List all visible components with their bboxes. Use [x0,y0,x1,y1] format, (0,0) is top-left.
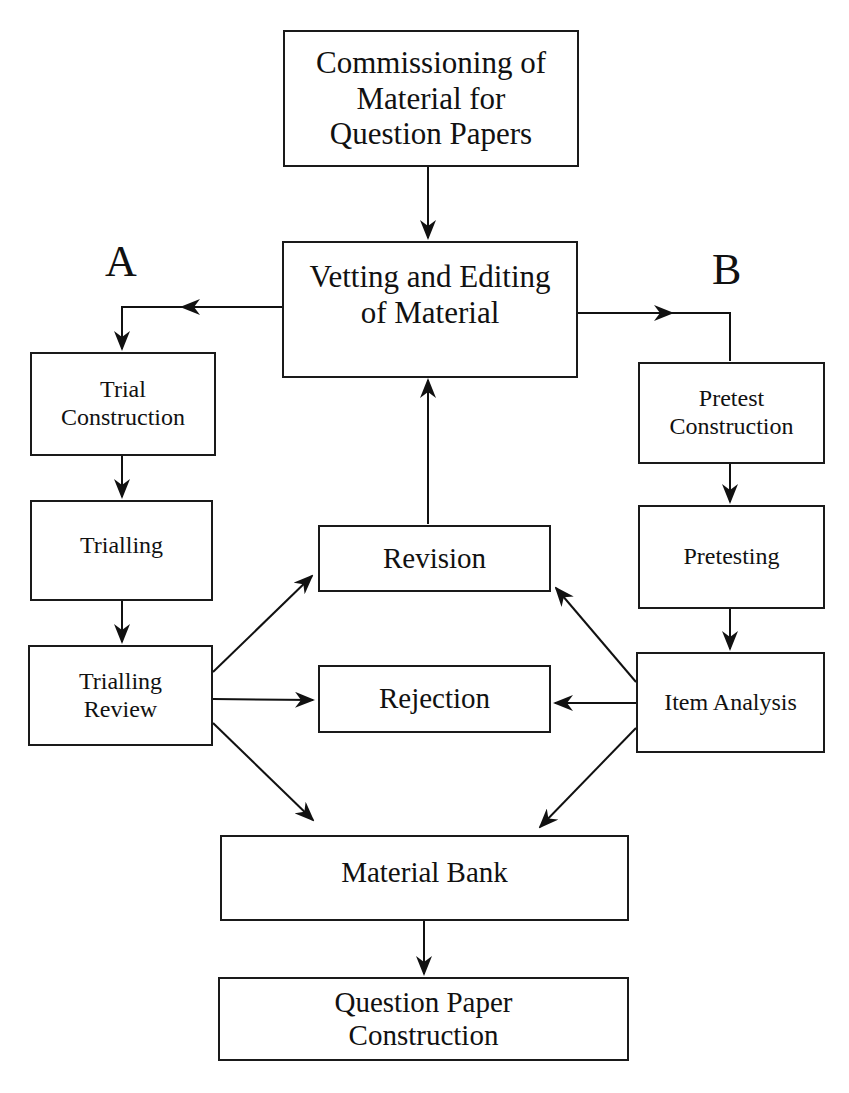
node-item-analysis: Item Analysis [636,652,825,753]
node-trialling-review-label: Trialling Review [79,668,162,723]
node-trial-construction-label: Trial Construction [61,376,185,431]
node-revision: Revision [318,525,551,592]
node-pretesting-label: Pretesting [684,543,780,571]
node-vetting: Vetting and Editing of Material [282,241,578,378]
node-rejection: Rejection [318,665,551,733]
node-material-bank-label: Material Bank [341,856,508,889]
branch-label-b: B [712,248,741,292]
node-trial-construction: Trial Construction [30,352,216,456]
node-vetting-label: Vetting and Editing of Material [309,259,550,330]
node-question-paper-label: Question Paper Construction [335,986,513,1053]
node-rejection-label: Rejection [379,682,490,715]
node-trialling: Trialling [30,500,213,601]
node-item-analysis-label: Item Analysis [664,689,797,717]
node-question-paper: Question Paper Construction [218,977,629,1061]
branch-label-a: A [105,240,137,284]
node-commissioning: Commissioning of Material for Question P… [283,30,579,167]
node-pretest-construction: Pretest Construction [638,362,825,464]
node-trialling-review: Trialling Review [28,645,213,746]
node-commissioning-label: Commissioning of Material for Question P… [316,45,546,152]
node-pretest-construction-label: Pretest Construction [670,385,794,440]
node-pretesting: Pretesting [638,505,825,609]
node-trialling-label: Trialling [80,532,163,560]
node-revision-label: Revision [383,542,486,575]
node-material-bank: Material Bank [220,835,629,921]
